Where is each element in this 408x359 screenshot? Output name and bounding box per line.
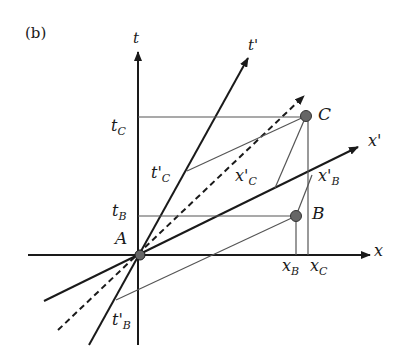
x-c-label: xC [310, 258, 327, 274]
diagram-lines [0, 0, 408, 359]
t-b-label: tB [112, 203, 127, 219]
x-prime-b-label: x'B [318, 168, 340, 184]
event-c-point [301, 111, 312, 122]
event-a-label: A [115, 230, 127, 247]
t-prime-b-label: t'B [112, 312, 131, 328]
event-b-point [291, 211, 302, 222]
event-a-point [135, 250, 145, 260]
x-prime-b-projection [296, 175, 312, 216]
t-prime-c-label: t'C [151, 165, 170, 181]
x-b-label: xB [282, 258, 299, 274]
t-axis-label: t [133, 31, 139, 46]
spacetime-diagram: (b) t x t' x' A B C tC tB xB xC t'C x'C … [0, 0, 408, 359]
event-b-label: B [312, 205, 325, 222]
x-prime-axis-label: x' [368, 133, 381, 149]
t-c-label: tC [111, 118, 126, 134]
x-prime-c-projection [275, 116, 306, 188]
x-prime-axis [44, 147, 358, 301]
t-prime-c-projection [187, 116, 306, 171]
x-prime-c-label: x'C [235, 168, 257, 184]
x-axis-label: x [374, 243, 383, 259]
t-prime-axis-label: t' [248, 38, 258, 53]
event-c-label: C [318, 106, 331, 123]
panel-label: (b) [25, 26, 46, 41]
light-line [58, 96, 304, 330]
